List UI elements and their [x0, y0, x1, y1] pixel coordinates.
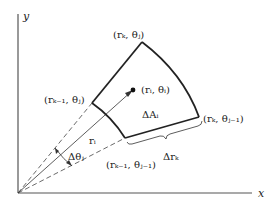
inner-arc — [92, 103, 125, 138]
side-theta-j — [92, 42, 142, 103]
label-center-point: (rᵢ, θᵢ) — [141, 84, 170, 95]
label-inner-bottom: (rₖ₋₁, θⱼ₋₁) — [106, 159, 156, 170]
label-delta-theta: Δθⱼ — [68, 151, 84, 162]
label-outer-top: (rₖ, θⱼ) — [113, 29, 144, 40]
label-radius: rᵢ — [89, 135, 96, 146]
label-area: ΔAᵢ — [142, 109, 158, 120]
label-outer-bottom: (rₖ, θⱼ₋₁) — [203, 113, 244, 124]
label-delta-rk: Δrₖ — [163, 151, 179, 162]
center-point — [131, 88, 136, 93]
side-theta-j-minus-1 — [125, 117, 199, 138]
polar-rectangle-diagram: y x — [0, 0, 280, 209]
outer-arc — [142, 42, 199, 117]
y-axis-label: y — [22, 10, 30, 23]
label-inner-top: (rₖ₋₁, θⱼ) — [44, 94, 85, 105]
x-axis-label: x — [258, 187, 265, 200]
brace-delta-rk — [127, 121, 202, 144]
